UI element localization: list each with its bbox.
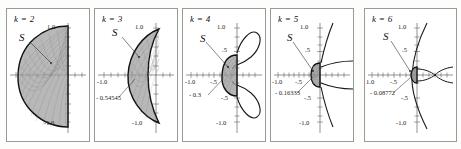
s-leader-dot — [409, 70, 411, 72]
panel-k-label: k = 5 — [278, 14, 299, 24]
x-tick-minus-one: -1.0 — [272, 78, 282, 85]
y-tick-bottom: -1.0 — [44, 119, 54, 126]
y-tick-bottom: -1.0 — [396, 119, 406, 126]
plot-canvas-k6 — [365, 9, 456, 141]
panel-k2: k = 2 S 1.0 -1.0 — [6, 8, 90, 142]
y-tick-half: .5 — [305, 46, 310, 53]
y-tick-top: 1.0 — [135, 23, 143, 30]
x-tick-minus-one: -1.0 — [185, 78, 195, 85]
panel-k3: k = 3 S 1.0 -1.0 -1.0 - 0.54545 — [94, 8, 178, 142]
x-tick-minus-half: -.5 — [210, 78, 217, 85]
critical-value-label: - 0.16333 — [275, 89, 300, 96]
y-tick-half: .5 — [402, 46, 407, 53]
x-tick-minus-half: -.5 — [295, 78, 302, 85]
stability-region-fill — [128, 29, 159, 123]
panel-k5: k = 5 S 1.0 .5 -.5 -1.0 -1.0 -.5 - 0.163… — [270, 8, 354, 142]
s-leader-dot — [50, 62, 52, 64]
s-leader-dot — [138, 56, 140, 58]
s-leader-line — [391, 41, 410, 71]
s-leader-dot — [312, 70, 314, 72]
critical-value-label: - 0.3 — [189, 91, 201, 98]
x-tick-one: 1.0 — [366, 78, 374, 85]
panel-k4: k = 4 S 1.0 .5 -.5 -1.0 -1.0 -.5 - 0.3 — [182, 8, 266, 142]
panel-k-label: k = 4 — [190, 14, 211, 24]
critical-value-label: - 0.08772 — [370, 89, 395, 96]
y-tick-top: 1.0 — [398, 23, 406, 30]
panel-k-label: k = 3 — [102, 14, 123, 24]
y-tick-top: 1.0 — [47, 23, 55, 30]
stability-region-figure: k = 2 S 1.0 -1.0 — [0, 0, 461, 149]
y-tick-neg-half: -.5 — [221, 94, 228, 101]
panel-k6: k = 6 S 1.0 .5 -.5 -1.0 1.0 -.5 - 0.0877… — [364, 8, 457, 142]
region-label-s: S — [383, 30, 389, 42]
region-label-s: S — [19, 31, 25, 43]
s-leader-dot — [227, 66, 229, 68]
x-tick-minus-one: -1.0 — [97, 78, 107, 85]
y-tick-neg-half: -.5 — [401, 94, 408, 101]
y-tick-bottom: -1.0 — [132, 119, 142, 126]
region-label-s: S — [112, 26, 118, 38]
panel-k-label: k = 6 — [372, 14, 393, 24]
plot-canvas-k5 — [271, 9, 353, 141]
stability-region-fill — [411, 67, 417, 83]
s-leader-line — [293, 42, 313, 71]
y-tick-neg-half: -.5 — [304, 94, 311, 101]
region-label-s: S — [200, 32, 206, 44]
critical-value-label: - 0.54545 — [96, 94, 121, 101]
y-tick-top: 1.0 — [300, 23, 308, 30]
y-tick-bottom: -1.0 — [216, 119, 226, 126]
x-tick-minus-half: -.5 — [390, 78, 397, 85]
y-tick-top: 1.0 — [217, 23, 225, 30]
y-tick-bottom: -1.0 — [299, 119, 309, 126]
panel-k-label: k = 2 — [14, 14, 35, 24]
y-tick-half: .5 — [222, 46, 227, 53]
region-label-s: S — [287, 31, 293, 43]
